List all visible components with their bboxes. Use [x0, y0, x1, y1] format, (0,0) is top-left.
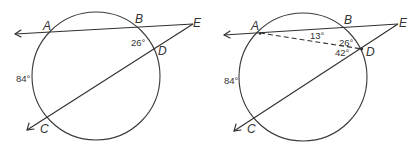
left-label-C: C — [40, 122, 49, 136]
right-label-D: D — [366, 45, 375, 59]
left-secant-ABE — [15, 24, 193, 34]
left-secant-EDC — [27, 24, 193, 130]
right-label-B: B — [344, 13, 352, 27]
right-figure: A B E D C 13° 26° 42° 84° — [224, 13, 408, 141]
right-label-A: A — [250, 19, 259, 33]
right-label-E: E — [399, 16, 408, 30]
right-angle-13: 13° — [310, 30, 325, 41]
right-label-C: C — [247, 122, 256, 136]
right-angle-42: 42° — [335, 47, 350, 58]
left-label-D: D — [158, 44, 167, 58]
left-angle-26: 26° — [131, 37, 146, 48]
right-arc-84: 84° — [224, 75, 239, 86]
right-point-D — [361, 48, 363, 50]
left-figure: A B E D C 26° 84° — [15, 12, 202, 140]
left-label-A: A — [42, 19, 51, 33]
left-label-E: E — [193, 16, 202, 30]
left-arc-84: 84° — [16, 73, 31, 84]
right-point-A — [259, 32, 261, 34]
left-circle — [32, 12, 160, 140]
secant-diagrams: A B E D C 26° 84° A B E D C 13° 26° 42° … — [0, 0, 415, 149]
left-label-B: B — [135, 12, 143, 26]
